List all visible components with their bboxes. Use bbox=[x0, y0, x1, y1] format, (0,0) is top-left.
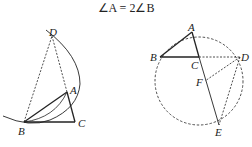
segment-AC-right bbox=[192, 32, 199, 57]
left-figure bbox=[3, 30, 80, 123]
label-C-right: C bbox=[191, 59, 199, 71]
label-D-left: D bbox=[48, 26, 57, 38]
label-A-left: A bbox=[69, 84, 77, 96]
right-labels: A B C D F E bbox=[150, 21, 249, 138]
segment-AB-right bbox=[160, 32, 192, 57]
label-E-right: E bbox=[214, 126, 222, 138]
label-D-right: D bbox=[240, 51, 249, 63]
segment-BD bbox=[24, 36, 52, 122]
segment-DA bbox=[52, 36, 67, 92]
label-A-right: A bbox=[187, 21, 195, 33]
left-labels: D A B C bbox=[18, 26, 86, 137]
geometry-figures: D A B C A B C D F E bbox=[0, 0, 252, 147]
label-C-left: C bbox=[78, 117, 86, 129]
segment-CA bbox=[67, 92, 75, 122]
label-B-left: B bbox=[18, 125, 25, 137]
segment-DF bbox=[205, 57, 240, 81]
segment-CE bbox=[199, 57, 219, 125]
segment-DE bbox=[219, 57, 240, 125]
label-B-right: B bbox=[150, 51, 157, 63]
label-F-right: F bbox=[195, 76, 203, 88]
segment-AB bbox=[24, 92, 67, 122]
